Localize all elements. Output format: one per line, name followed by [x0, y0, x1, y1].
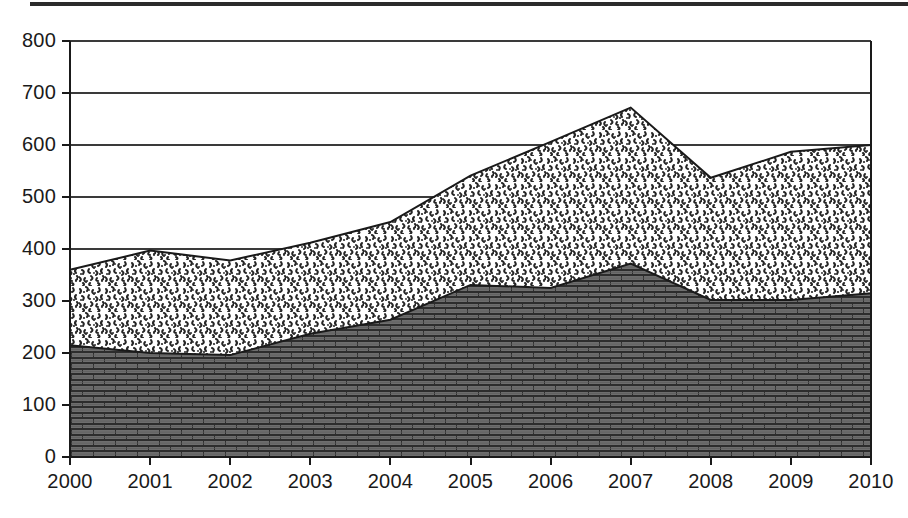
y-tick-label-0: 0 — [0, 445, 56, 468]
x-tick-label-2005: 2005 — [431, 470, 511, 493]
x-tick-label-2000: 2000 — [30, 470, 110, 493]
x-tick-label-2006: 2006 — [511, 470, 591, 493]
x-tick-label-2010: 2010 — [831, 470, 908, 493]
y-tick-label-200: 200 — [0, 341, 56, 364]
y-tick-label-600: 600 — [0, 133, 56, 156]
y-tick-label-800: 800 — [0, 29, 56, 52]
y-axis-ticks — [62, 41, 70, 457]
y-tick-label-400: 400 — [0, 237, 56, 260]
x-tick-label-2001: 2001 — [110, 470, 190, 493]
x-tick-label-2009: 2009 — [751, 470, 831, 493]
chart-figure: 800 700 600 500 400 300 200 100 0 2000 2… — [0, 0, 908, 518]
stacked-area-chart-plot — [0, 0, 908, 518]
x-tick-label-2002: 2002 — [190, 470, 270, 493]
x-tick-label-2003: 2003 — [270, 470, 350, 493]
y-tick-label-500: 500 — [0, 185, 56, 208]
x-axis-ticks — [70, 457, 871, 465]
x-tick-label-2008: 2008 — [671, 470, 751, 493]
y-tick-label-100: 100 — [0, 393, 56, 416]
y-tick-label-700: 700 — [0, 81, 56, 104]
x-tick-label-2004: 2004 — [350, 470, 430, 493]
y-tick-label-300: 300 — [0, 289, 56, 312]
x-tick-label-2007: 2007 — [591, 470, 671, 493]
